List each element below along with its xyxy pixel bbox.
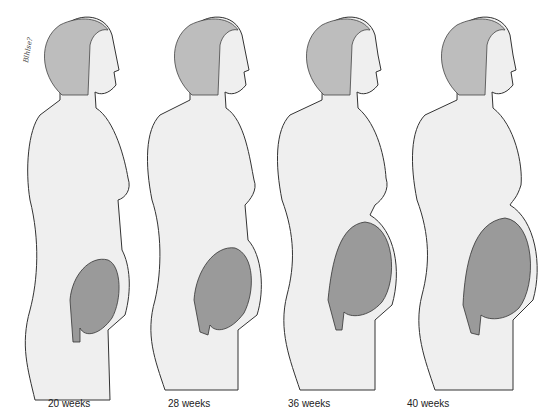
silhouette-28-weeks bbox=[130, 0, 270, 400]
figure-28-weeks: 28 weeks bbox=[130, 0, 270, 418]
figure-20-weeks: Blhlse? 20 weeks bbox=[0, 0, 140, 418]
stage-label: 40 weeks bbox=[407, 398, 449, 409]
figure-36-weeks: 36 weeks bbox=[260, 0, 410, 418]
silhouette-40-weeks bbox=[395, 0, 554, 400]
stage-label: 20 weeks bbox=[48, 398, 90, 409]
stage-label: 36 weeks bbox=[288, 398, 330, 409]
silhouette-36-weeks bbox=[260, 0, 410, 400]
silhouette-20-weeks bbox=[0, 0, 140, 400]
figure-40-weeks: 40 weeks bbox=[395, 0, 554, 418]
stage-label: 28 weeks bbox=[168, 398, 210, 409]
